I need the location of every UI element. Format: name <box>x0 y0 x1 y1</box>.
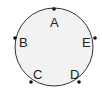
point-a-label: A <box>50 15 59 30</box>
point-c-label: C <box>33 67 42 82</box>
point-e: E <box>82 35 97 50</box>
point-e-label: E <box>82 35 91 50</box>
point-e-dot <box>93 36 97 40</box>
point-d: D <box>70 67 81 84</box>
point-b-label: B <box>19 35 28 50</box>
point-a-dot <box>52 7 56 11</box>
circle-diagram: A B C D E <box>0 0 102 92</box>
point-d-label: D <box>70 67 79 82</box>
point-b-dot <box>13 36 17 40</box>
